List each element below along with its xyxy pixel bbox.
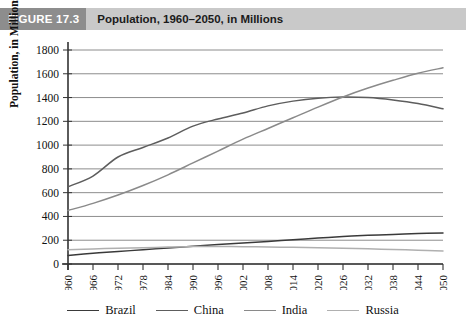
x-tick-label: 1996 bbox=[212, 275, 224, 291]
y-tick-label: 600 bbox=[42, 187, 60, 199]
figure-title: Population, 1960–2050, in Millions bbox=[97, 13, 283, 25]
y-tick-label: 1600 bbox=[36, 68, 59, 80]
x-tick-label: 2050 bbox=[437, 275, 449, 291]
y-tick-label: 1400 bbox=[36, 92, 59, 104]
figure-container: FIGURE 17.3 Population, 1960–2050, in Mi… bbox=[0, 0, 466, 328]
line-chart: 0200400600800100012001400160018001960196… bbox=[0, 30, 466, 290]
legend-item-russia[interactable]: Russia bbox=[327, 303, 398, 318]
legend-item-india[interactable]: India bbox=[244, 303, 308, 318]
series-line-russia bbox=[68, 246, 443, 251]
y-tick-label: 1800 bbox=[36, 44, 59, 56]
x-tick-label: 2026 bbox=[337, 275, 349, 291]
legend-swatch-india bbox=[244, 310, 276, 311]
x-tick-label: 2044 bbox=[412, 275, 424, 291]
series-line-china bbox=[68, 97, 443, 187]
x-tick-label: 2002 bbox=[237, 275, 249, 290]
y-tick-label: 400 bbox=[42, 210, 60, 222]
legend-label: India bbox=[282, 303, 308, 318]
y-tick-label: 800 bbox=[42, 163, 60, 175]
figure-header: FIGURE 17.3 Population, 1960–2050, in Mi… bbox=[0, 8, 466, 30]
y-tick-label: 200 bbox=[42, 234, 60, 246]
x-tick-label: 2038 bbox=[387, 275, 399, 291]
x-tick-label: 1984 bbox=[162, 275, 174, 291]
y-tick-label: 0 bbox=[53, 258, 59, 270]
legend-swatch-china bbox=[156, 310, 188, 311]
chart-legend: BrazilChinaIndiaRussia bbox=[0, 300, 466, 320]
series-line-brazil bbox=[68, 233, 443, 255]
legend-label: Brazil bbox=[105, 303, 136, 318]
x-tick-label: 1972 bbox=[112, 275, 124, 290]
legend-label: China bbox=[194, 303, 224, 318]
chart-area: Population, in Millions 0200400600800100… bbox=[0, 30, 466, 328]
x-tick-label: 2008 bbox=[262, 275, 274, 291]
x-tick-label: 1990 bbox=[187, 275, 199, 291]
x-tick-label: 2014 bbox=[287, 275, 299, 291]
legend-swatch-russia bbox=[327, 310, 359, 311]
y-tick-label: 1000 bbox=[36, 139, 59, 151]
x-tick-label: 1978 bbox=[137, 275, 149, 291]
legend-label: Russia bbox=[365, 303, 398, 318]
x-tick-label: 1960 bbox=[62, 275, 74, 291]
legend-swatch-brazil bbox=[67, 310, 99, 311]
legend-item-china[interactable]: China bbox=[156, 303, 224, 318]
legend-item-brazil[interactable]: Brazil bbox=[67, 303, 136, 318]
series-line-india bbox=[68, 68, 443, 211]
x-tick-label: 2020 bbox=[312, 275, 324, 291]
x-tick-label: 1966 bbox=[87, 275, 99, 291]
x-tick-label: 2032 bbox=[362, 275, 374, 290]
y-tick-label: 1200 bbox=[36, 115, 59, 127]
